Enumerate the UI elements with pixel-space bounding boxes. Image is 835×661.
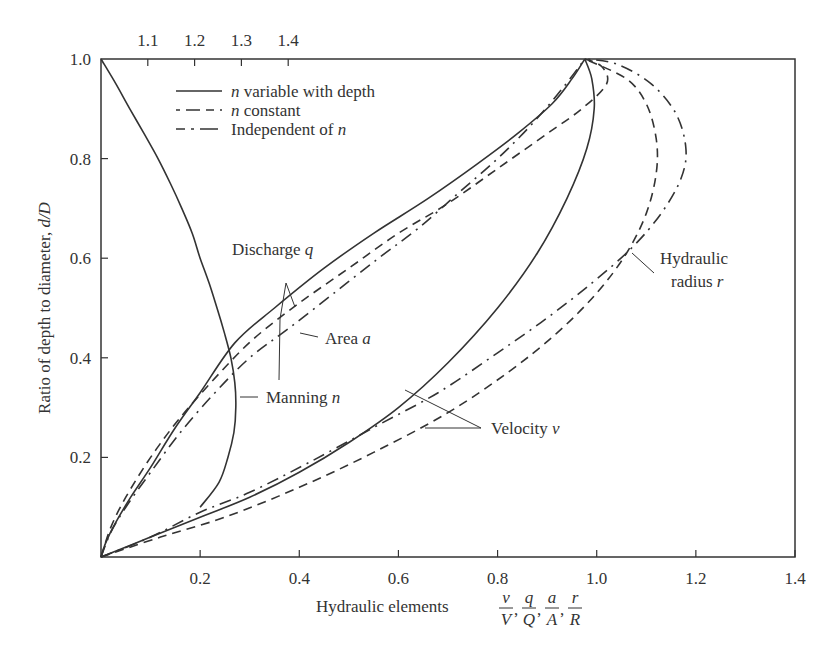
label-hydraulic: Hydraulic — [660, 249, 728, 268]
x-tick-label: 0.4 — [289, 569, 311, 588]
x-axis-title-prefix: Hydraulic elements — [316, 597, 449, 616]
discharge-leader-solid — [286, 283, 295, 307]
y-tick-label: 1.0 — [70, 50, 91, 69]
x-tick-label: 0.8 — [487, 569, 508, 588]
y-tick-label: 0.8 — [70, 150, 91, 169]
fraction-denominator: A — [546, 610, 558, 629]
chart-figure: 0.20.40.60.81.01.21.4 0.20.40.60.81.0 1.… — [0, 0, 835, 661]
fraction-separator: , — [560, 600, 564, 619]
velocity-leader — [405, 390, 481, 428]
label-area: Area a — [325, 329, 371, 348]
x-tick-label: 0.2 — [190, 569, 211, 588]
plot-frame — [101, 59, 795, 557]
fraction-numerator: v — [502, 588, 510, 607]
top-axis-ticks: 1.11.21.31.4 — [137, 31, 299, 66]
x-axis-ticks: 0.20.40.60.81.01.21.4 — [190, 550, 807, 588]
fraction-numerator: r — [572, 588, 579, 607]
x-axis-title: Hydraulic elements vV,qQ,aA,rR — [316, 588, 582, 629]
label-radius: radius r — [671, 272, 724, 291]
label-velocity: Velocity v — [491, 419, 560, 438]
y-axis-ticks: 0.20.40.60.81.0 — [70, 50, 108, 467]
curve-hydraulic-radius-r-independent-of-n — [101, 59, 686, 557]
curve-discharge-q-n-constant — [101, 59, 608, 557]
label-discharge: Discharge q — [232, 240, 314, 259]
legend-entry-dashed: n constant — [231, 101, 301, 120]
hydraulic-radius-leader — [632, 253, 654, 273]
fraction-denominator: Q — [523, 610, 535, 629]
top-tick-label: 1.1 — [137, 31, 158, 50]
legend-entry-dashdot: Independent of n — [231, 120, 346, 139]
top-tick-label: 1.4 — [278, 31, 300, 50]
label-manning: Manning n — [266, 388, 340, 407]
legend-entry-solid: n variable with depth — [231, 82, 375, 101]
annotations: Discharge q Area a Manning n Velocity v … — [232, 240, 728, 438]
curve-velocity-v-n-variable-with-depth — [101, 59, 594, 557]
fraction-denominator: R — [569, 610, 581, 629]
x-tick-label: 1.0 — [586, 569, 607, 588]
fraction-separator: , — [537, 600, 541, 619]
fraction-numerator: q — [525, 588, 534, 607]
top-tick-label: 1.2 — [184, 31, 205, 50]
area-leader — [300, 333, 318, 337]
x-tick-label: 0.6 — [388, 569, 409, 588]
fraction-denominator: V — [501, 610, 514, 629]
top-tick-label: 1.3 — [231, 31, 252, 50]
fraction-separator: , — [514, 600, 518, 619]
x-tick-label: 1.2 — [685, 569, 706, 588]
y-axis-title: Ratio of depth to diameter, d/D — [35, 201, 54, 414]
curve-velocity-v-n-constant — [101, 59, 657, 557]
y-tick-label: 0.6 — [70, 249, 91, 268]
y-tick-label: 0.4 — [70, 349, 92, 368]
fraction-numerator: a — [548, 588, 557, 607]
x-tick-label: 1.4 — [784, 569, 806, 588]
legend: n variable with depth n constant Indepen… — [176, 82, 375, 139]
curve-manning-n-n-variable-with-depth — [101, 59, 236, 507]
curves — [101, 59, 686, 557]
x-axis-title-fractions: vV,qQ,aA,rR — [499, 588, 582, 629]
svg-text:Ratio of depth to diameter, d/: Ratio of depth to diameter, d/D — [35, 201, 54, 414]
y-tick-label: 0.2 — [70, 448, 91, 467]
